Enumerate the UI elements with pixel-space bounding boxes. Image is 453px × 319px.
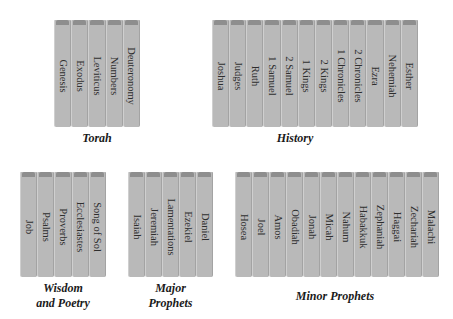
spine-cap bbox=[424, 172, 437, 177]
book-spine: Hosea bbox=[235, 172, 252, 277]
spine-cap bbox=[90, 20, 103, 25]
book-spine: Joel bbox=[252, 172, 269, 277]
book-title: 2 Samuel bbox=[284, 56, 295, 95]
book-title: Exodus bbox=[74, 60, 85, 92]
book-spine: 1 Kings bbox=[298, 20, 315, 127]
book-spine: Psalms bbox=[37, 172, 54, 277]
book-title: Daniel bbox=[199, 213, 210, 241]
book-title: Numbers bbox=[109, 56, 120, 95]
book-spine: Judges bbox=[229, 20, 246, 127]
spine-cap bbox=[56, 20, 69, 25]
book-title: Obadiah bbox=[289, 209, 300, 245]
book-spine: Genesis bbox=[54, 20, 71, 127]
spine-cap bbox=[373, 172, 386, 177]
caption-line: and Poetry bbox=[18, 296, 108, 311]
book-title: 2 Chronicles bbox=[352, 49, 363, 102]
book-spine: Daniel bbox=[196, 172, 213, 277]
spine-cap bbox=[334, 20, 347, 25]
book-spine: Song of Sol bbox=[89, 172, 106, 277]
caption-line: Minor Prophets bbox=[275, 289, 395, 304]
book-title: Ezra bbox=[369, 66, 380, 85]
spine-cap bbox=[108, 20, 121, 25]
book-title: Song of Sol bbox=[92, 202, 103, 252]
book-spine: Deuteronomy bbox=[123, 20, 140, 127]
book-title: Zephaniah bbox=[374, 204, 385, 248]
book-spine: 2 Chronicles bbox=[349, 20, 366, 127]
book-title: Jonah bbox=[306, 214, 317, 239]
book-title: Amos bbox=[272, 214, 283, 239]
caption-history: History bbox=[212, 131, 378, 146]
book-spine: Zephaniah bbox=[371, 172, 388, 277]
book-title: 1 Kings bbox=[301, 59, 312, 92]
spine-cap bbox=[214, 20, 227, 25]
spine-cap bbox=[356, 172, 369, 177]
book-title: Zechariah bbox=[408, 206, 419, 248]
spine-cap bbox=[403, 20, 416, 25]
book-title: Psalms bbox=[40, 212, 51, 242]
spine-cap bbox=[368, 20, 381, 25]
book-title: 1 Samuel bbox=[267, 56, 278, 95]
book-title: Esther bbox=[404, 62, 415, 89]
book-spine: 1 Samuel bbox=[263, 20, 280, 127]
book-title: Judges bbox=[232, 61, 243, 90]
book-spine: Zechariah bbox=[405, 172, 422, 277]
caption-line: History bbox=[212, 131, 378, 146]
book-spine: Haggai bbox=[388, 172, 405, 277]
caption-minor-prophets: Minor Prophets bbox=[275, 289, 395, 304]
spine-cap bbox=[56, 172, 69, 177]
caption-line: Major bbox=[128, 281, 213, 296]
spine-cap bbox=[351, 20, 364, 25]
spine-cap bbox=[300, 20, 313, 25]
caption-line: Wisdom bbox=[18, 281, 108, 296]
caption-wisdom: Wisdom and Poetry bbox=[18, 281, 108, 311]
book-spine: Micah bbox=[320, 172, 337, 277]
spine-cap bbox=[265, 20, 278, 25]
book-spine: Exodus bbox=[71, 20, 88, 127]
book-spine: Nahum bbox=[337, 172, 354, 277]
shelf-torah: Genesis Exodus Leviticus Numbers Deutero… bbox=[54, 20, 140, 127]
book-spine: 1 Chronicles bbox=[332, 20, 349, 127]
spine-cap bbox=[237, 172, 250, 177]
spine-cap bbox=[91, 172, 104, 177]
spine-cap bbox=[125, 20, 138, 25]
spine-cap bbox=[74, 172, 87, 177]
book-spine: Isaiah bbox=[128, 172, 145, 277]
book-spine: Leviticus bbox=[88, 20, 105, 127]
book-title: Ruth bbox=[249, 65, 260, 85]
book-spine: 2 Samuel bbox=[281, 20, 298, 127]
book-spine: 2 Kings bbox=[315, 20, 332, 127]
spine-cap bbox=[198, 172, 211, 177]
book-spine: Job bbox=[20, 172, 37, 277]
spine-cap bbox=[248, 20, 261, 25]
book-title: Joshua bbox=[215, 61, 226, 90]
spine-cap bbox=[147, 172, 160, 177]
book-title: Lamentations bbox=[165, 198, 176, 255]
book-spine: Ruth bbox=[246, 20, 263, 127]
book-title: Malachi bbox=[425, 209, 436, 243]
book-title: Hosea bbox=[238, 213, 249, 239]
book-title: Proverbs bbox=[57, 208, 68, 245]
shelf-minor-prophets: Hosea Joel Amos Obadiah Jonah Micah Nahu… bbox=[235, 172, 439, 277]
book-spine: Malachi bbox=[422, 172, 439, 277]
spine-cap bbox=[22, 172, 35, 177]
spine-cap bbox=[271, 172, 284, 177]
book-spine: Numbers bbox=[106, 20, 123, 127]
spine-cap bbox=[164, 172, 177, 177]
book-title: Joel bbox=[255, 218, 266, 235]
book-spine: Joshua bbox=[212, 20, 229, 127]
book-title: Ecclesiastes bbox=[75, 201, 86, 252]
spine-cap bbox=[407, 172, 420, 177]
book-spine: Jeremiah bbox=[145, 172, 162, 277]
book-spine: Habakkuk bbox=[354, 172, 371, 277]
shelf-major-prophets: Isaiah Jeremiah Lamentations Ezekiel Dan… bbox=[128, 172, 213, 277]
book-spine: Ezekiel bbox=[179, 172, 196, 277]
book-title: Ezekiel bbox=[182, 211, 193, 242]
book-title: Nahum bbox=[340, 211, 351, 242]
spine-cap bbox=[39, 172, 52, 177]
spine-cap bbox=[386, 20, 399, 25]
spine-cap bbox=[130, 172, 143, 177]
book-title: Micah bbox=[323, 213, 334, 240]
caption-line: Prophets bbox=[128, 296, 213, 311]
book-title: Habakkuk bbox=[357, 205, 368, 248]
caption-torah: Torah bbox=[54, 131, 140, 146]
